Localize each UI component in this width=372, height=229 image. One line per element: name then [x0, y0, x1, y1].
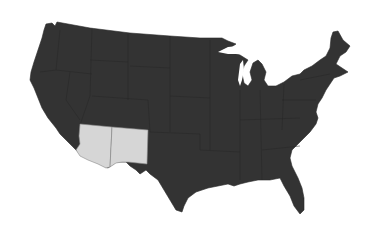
- new-mexico-region[interactable]: [110, 127, 148, 167]
- arizona-region[interactable]: [76, 124, 112, 168]
- us-map: [0, 0, 372, 229]
- us-map-svg: [0, 0, 372, 229]
- us-base-region: [30, 22, 350, 214]
